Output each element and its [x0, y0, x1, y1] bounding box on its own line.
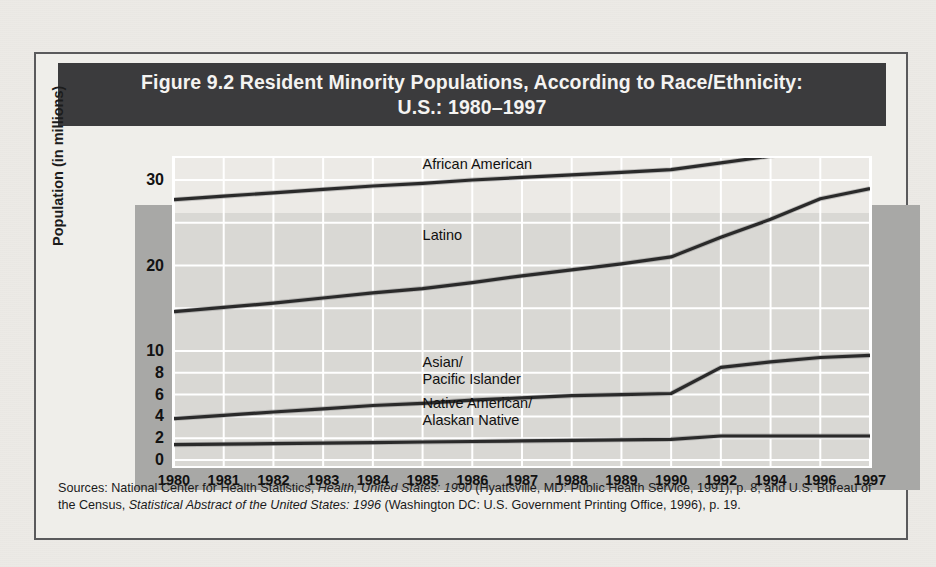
- source-middle-2: (Washington DC: U.S. Government Printing…: [381, 498, 741, 512]
- source-note: Sources: National Center for Health Stat…: [58, 480, 884, 513]
- y-tick-0: 0: [124, 451, 164, 469]
- title-line-1: Figure 9.2 Resident Minority Populations…: [141, 71, 803, 93]
- y-tick-4: 4: [124, 407, 164, 425]
- chart-container: Population (in millions) 02468102030 Afr…: [58, 148, 886, 476]
- page-background: Figure 9.2 Resident Minority Populations…: [0, 0, 936, 567]
- plot-area: African AmericanLatinoAsian/Pacific Isla…: [172, 156, 872, 468]
- y-axis-label: Population (in millions): [50, 66, 66, 246]
- page-title: Figure 9.2 Resident Minority Populations…: [141, 70, 803, 120]
- y-tick-6: 6: [124, 386, 164, 404]
- y-tick-2: 2: [124, 429, 164, 447]
- y-tick-8: 8: [124, 364, 164, 382]
- series-shadow-1: [174, 189, 870, 312]
- figure-frame: Figure 9.2 Resident Minority Populations…: [34, 52, 908, 540]
- series-label-latino: Latino: [423, 227, 463, 244]
- y-axis-ticks: 02468102030: [120, 156, 164, 468]
- series-line-latino: [174, 189, 870, 312]
- y-tick-30: 30: [124, 171, 164, 189]
- series-label-line: Native American/: [423, 395, 533, 412]
- series-label-native-american-alaskan-native: Native American/Alaskan Native: [423, 395, 533, 429]
- source-citation-2: Statistical Abstract of the United State…: [129, 498, 381, 512]
- series-label-line: Alaskan Native: [423, 412, 533, 429]
- series-label-african-american: African American: [423, 156, 533, 173]
- y-tick-10: 10: [124, 342, 164, 360]
- series-label-asian-pacific-islander: Asian/Pacific Islander: [423, 354, 521, 388]
- y-tick-20: 20: [124, 257, 164, 275]
- series-label-line: Asian/: [423, 354, 521, 371]
- source-citation-1: Health, United States: 1990: [318, 481, 472, 495]
- series-label-line: Pacific Islander: [423, 371, 521, 388]
- source-prefix: Sources: National Center for Health Stat…: [58, 481, 318, 495]
- figure-title-bar: Figure 9.2 Resident Minority Populations…: [58, 63, 886, 126]
- title-line-2: U.S.: 1980–1997: [141, 95, 803, 120]
